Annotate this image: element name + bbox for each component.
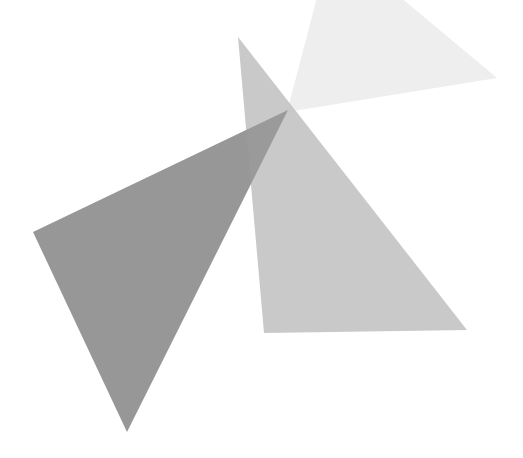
triangles-figure	[0, 0, 523, 458]
figure-canvas	[0, 0, 523, 458]
